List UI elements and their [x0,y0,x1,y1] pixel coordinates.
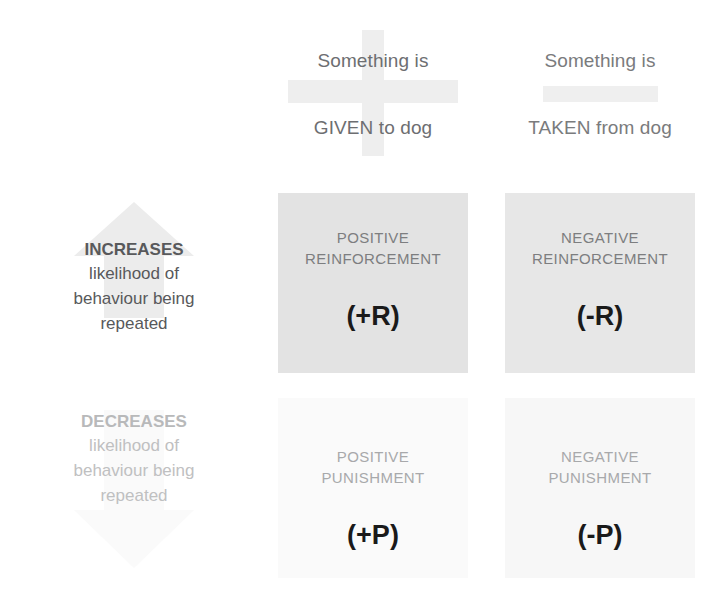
cell-positive-punishment-title-line1: POSITIVE [274,446,472,467]
cell-positive-punishment-code: (+P) [278,520,468,551]
cell-negative-reinforcement-title-line2: REINFORCEMENT [501,248,699,269]
column-header-given: Something is GIVEN to dog [268,28,478,158]
cell-negative-reinforcement: NEGATIVE REINFORCEMENT (-R) [505,193,695,373]
row-label-decreases-line4: repeated [10,483,258,508]
column-header-given-line1: Something is [268,50,478,72]
cell-positive-reinforcement-code: (+R) [278,301,468,332]
column-header-taken-line2: TAKEN from dog [495,117,705,139]
row-label-increases-text: INCREASES likelihood of behaviour being … [10,196,258,336]
operant-conditioning-matrix: Something is GIVEN to dog Something is T… [0,0,726,600]
cell-positive-reinforcement-title-line2: REINFORCEMENT [274,248,472,269]
cell-positive-punishment-title: POSITIVE PUNISHMENT [274,446,472,488]
row-label-decreases-strong: DECREASES [10,410,258,433]
cell-negative-punishment-title-line2: PUNISHMENT [501,467,699,488]
row-label-increases-line3: behaviour being [10,286,258,311]
cell-negative-reinforcement-code: (-R) [505,301,695,332]
cell-positive-reinforcement: POSITIVE REINFORCEMENT (+R) [278,193,468,373]
row-label-decreases-text: DECREASES likelihood of behaviour being … [10,400,258,508]
row-label-decreases-line3: behaviour being [10,458,258,483]
row-label-decreases-line2: likelihood of [10,433,258,458]
row-label-increases-strong: INCREASES [10,238,258,261]
cell-negative-punishment-title: NEGATIVE PUNISHMENT [501,446,699,488]
row-label-increases-line4: repeated [10,311,258,336]
cell-negative-punishment-title-line1: NEGATIVE [501,446,699,467]
row-label-increases: INCREASES likelihood of behaviour being … [10,196,258,381]
cell-positive-punishment: POSITIVE PUNISHMENT (+P) [278,398,468,578]
cell-negative-reinforcement-title-line1: NEGATIVE [501,227,699,248]
cell-positive-punishment-title-line2: PUNISHMENT [274,467,472,488]
cell-positive-reinforcement-title: POSITIVE REINFORCEMENT [274,227,472,269]
cell-positive-reinforcement-title-line1: POSITIVE [274,227,472,248]
column-header-taken: Something is TAKEN from dog [495,28,705,158]
cell-negative-reinforcement-title: NEGATIVE REINFORCEMENT [501,227,699,269]
row-label-decreases: DECREASES likelihood of behaviour being … [10,400,258,580]
column-header-taken-line1: Something is [495,50,705,72]
row-label-increases-line2: likelihood of [10,261,258,286]
cell-negative-punishment-code: (-P) [505,520,695,551]
column-header-given-line2: GIVEN to dog [268,117,478,139]
cell-negative-punishment: NEGATIVE PUNISHMENT (-P) [505,398,695,578]
